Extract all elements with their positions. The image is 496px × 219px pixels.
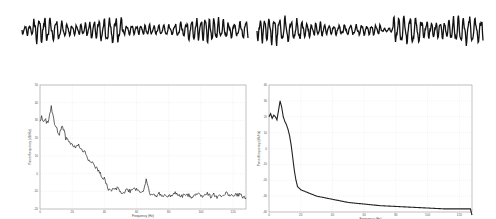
y-tick-label: -10 xyxy=(34,189,39,193)
x-tick-label: 120 xyxy=(457,213,462,217)
y-tick-label: 50 xyxy=(35,83,39,87)
x-tick-label: 80 xyxy=(167,210,171,214)
x-tick-label: 20 xyxy=(299,213,303,217)
y-tick-label: 0 xyxy=(265,147,267,151)
eeg-waveform-left xyxy=(20,8,250,53)
waveform-trace xyxy=(257,15,483,46)
x-axis-label: Frequency (Hz) xyxy=(132,214,154,218)
x-tick-label: 100 xyxy=(198,210,203,214)
x-tick-label: 80 xyxy=(394,213,398,217)
waveform-trace xyxy=(22,17,248,44)
x-tick-label: 40 xyxy=(103,210,107,214)
waveform-left-plot xyxy=(20,8,250,53)
y-axis-label: Power/frequency (dB/Hz) xyxy=(28,129,32,165)
psd-line xyxy=(269,101,472,215)
y-tick-label: -40 xyxy=(263,210,268,214)
eeg-waveform-right xyxy=(255,8,485,53)
psd-line xyxy=(40,106,246,199)
psd-right-plot: 020406080100120-40-30-20-10010203040Freq… xyxy=(255,82,496,219)
psd-left-plot: 020406080100120-20-1001020304050Frequenc… xyxy=(22,82,252,219)
y-tick-label: 30 xyxy=(264,99,268,103)
plot-frame xyxy=(40,85,246,209)
psd-chart-right: 020406080100120-40-30-20-10010203040Freq… xyxy=(255,82,496,219)
y-tick-label: 40 xyxy=(35,101,39,105)
y-tick-label: -20 xyxy=(34,207,39,211)
y-axis-label: Power/frequency (dB/Hz) xyxy=(257,131,261,167)
y-tick-label: 30 xyxy=(35,118,39,122)
y-tick-label: 20 xyxy=(35,136,39,140)
y-tick-label: 0 xyxy=(36,172,38,176)
x-tick-label: 120 xyxy=(231,210,236,214)
x-tick-label: 40 xyxy=(331,213,335,217)
y-tick-label: 10 xyxy=(264,131,268,135)
x-tick-label: 20 xyxy=(71,210,75,214)
y-tick-label: 10 xyxy=(35,154,39,158)
psd-chart-left: 020406080100120-20-1001020304050Frequenc… xyxy=(22,82,252,219)
x-axis-label: Frequency (Hz) xyxy=(360,217,382,219)
waveform-right-plot xyxy=(255,8,485,53)
y-tick-label: -20 xyxy=(263,178,268,182)
x-tick-label: 0 xyxy=(39,210,41,214)
y-tick-label: 20 xyxy=(264,115,268,119)
y-tick-label: 40 xyxy=(264,83,268,87)
x-tick-label: 0 xyxy=(268,213,270,217)
y-tick-label: -30 xyxy=(263,194,268,198)
y-tick-label: -10 xyxy=(263,162,268,166)
x-tick-label: 100 xyxy=(425,213,430,217)
